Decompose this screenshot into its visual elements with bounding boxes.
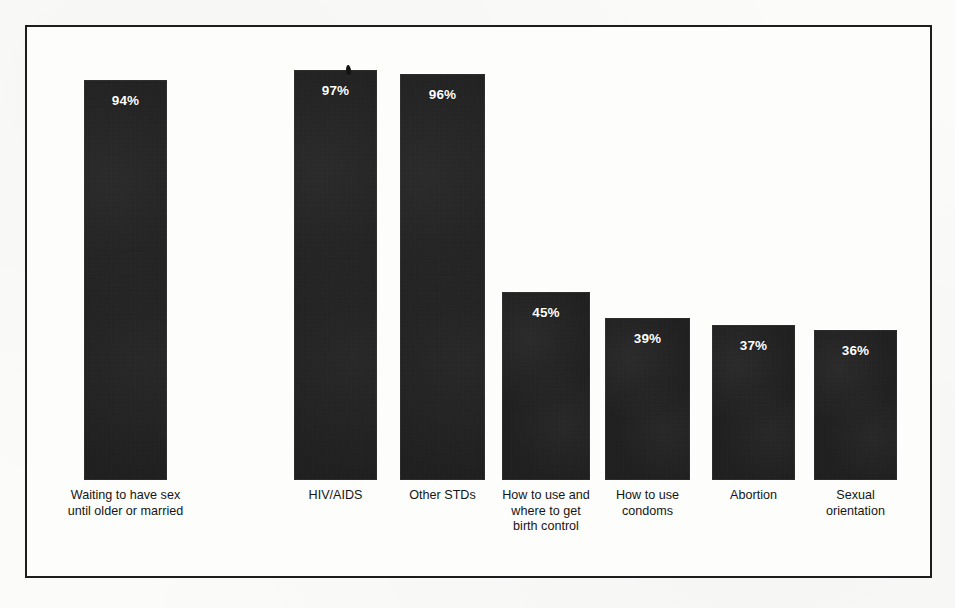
bar-7: 36%: [814, 330, 897, 480]
bar-1: 94%: [84, 80, 167, 480]
bar-4: 45%: [502, 292, 590, 480]
bar-value-label: 39%: [605, 331, 690, 346]
bar-5: 39%: [605, 318, 690, 480]
category-label-7: Sexual orientation: [784, 488, 928, 519]
bar-value-label: 45%: [502, 305, 590, 320]
bar-value-label: 37%: [712, 338, 795, 353]
bar-6: 37%: [712, 325, 795, 480]
bar-value-label: 97%: [294, 83, 377, 98]
bar-value-label: 36%: [814, 343, 897, 358]
bar-value-label: 94%: [84, 93, 167, 108]
scanned-page-background: 94%Waiting to have sex until older or ma…: [0, 0, 955, 608]
bar-chart-plot-area: 94%Waiting to have sex until older or ma…: [27, 27, 930, 576]
bar-value-label: 96%: [400, 87, 485, 102]
bar-2: 97%: [294, 70, 377, 480]
chart-frame: 94%Waiting to have sex until older or ma…: [25, 25, 932, 578]
category-label-1: Waiting to have sex until older or marri…: [54, 488, 198, 519]
bar-3: 96%: [400, 74, 485, 480]
